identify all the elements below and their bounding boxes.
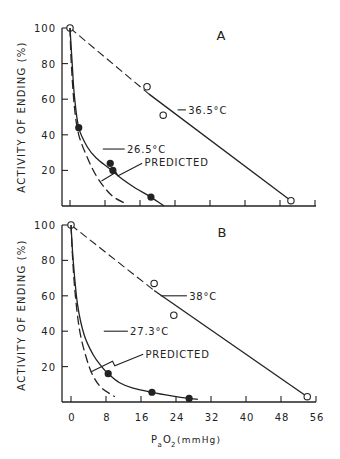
x-tick-label: 48 [275,412,290,423]
data-point-open-36-5-c [160,112,166,118]
y-tick-label: 40 [41,326,56,337]
y-tick-label: 60 [41,291,56,302]
figure: 20406080100ACTIVITY OF ENDING (%)A36.5°C… [0,0,340,459]
y-axis-title: ACTIVITY OF ENDING (%) [16,41,27,192]
fit-curve-26-5-c [70,28,164,206]
fit-line-dashed-38-c [71,225,154,290]
y-tick-label: 20 [41,165,56,176]
y-tick-label: 80 [41,59,56,70]
x-axis-title-sub-2: 2 [171,441,175,449]
panel-letter: B [217,225,226,240]
x-tick-label: 24 [170,412,185,423]
y-tick-label: 80 [41,255,56,266]
data-point-open-36-5-c [288,197,294,203]
data-point-filled-26-5-c [147,194,154,201]
data-point-open-38-c [171,312,177,318]
annotation-label: PREDICTED [145,349,209,360]
annotation-label: 38°C [189,291,217,302]
data-point-open-38-c [151,280,157,286]
x-tick-label: 8 [103,412,110,423]
fit-curve-27-3-c [71,225,198,399]
fit-line-dashed-36-5-c [70,28,149,94]
y-tick-label: 60 [41,94,56,105]
fit-line-38-c [154,290,307,396]
x-tick-label: 40 [240,412,255,423]
x-tick-label: 56 [310,412,325,423]
data-point-open-38-c [304,393,310,399]
annotation-label: 26.5°C [127,144,166,155]
panel-a-chart: 20406080100ACTIVITY OF ENDING (%)A36.5°C… [16,23,316,206]
x-axis-title-sub-a: a [158,441,162,449]
y-tick-label: 100 [34,220,56,231]
x-tick-label: 0 [68,412,75,423]
data-point-filled-27-3-c [148,389,155,396]
y-tick-label: 20 [41,362,56,373]
data-point-filled-26-5-c [107,160,114,167]
panel-b-chart: 2040608010008162432404856ACTIVITY OF END… [16,220,324,423]
y-tick-label: 100 [34,23,56,34]
data-point-open-36-5-c [144,84,150,90]
y-tick-label: 40 [41,130,56,141]
x-axis-title: P a O 2 (mmHg) [151,434,221,449]
x-tick-label: 32 [205,412,220,423]
y-axis-title: ACTIVITY OF ENDING (%) [16,239,27,390]
data-point-filled-27-3-c [105,370,112,377]
annotation-label: PREDICTED [144,157,208,168]
annotation-label: 27.3°C [130,326,169,337]
x-axis-title-unit: (mmHg) [177,435,221,445]
x-tick-label: 16 [135,412,150,423]
panel-letter: A [216,28,225,43]
annotation-label: 36.5°C [188,105,227,116]
predicted-curve [70,28,127,204]
data-point-filled-27-3-c [186,395,193,402]
